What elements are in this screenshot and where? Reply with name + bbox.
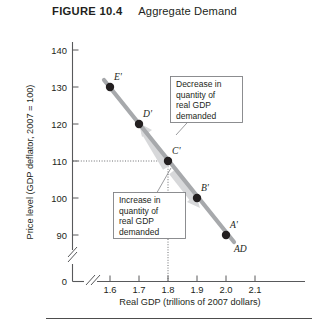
decrease-callout-line-2: quantity of	[176, 90, 216, 100]
x-tick-label-2-1: 2.1	[248, 284, 261, 295]
x-tick-label-1-7: 1.7	[132, 284, 145, 295]
data-point-A-prime[interactable]	[222, 231, 230, 239]
increase-callout-line-3: real GDP	[119, 216, 154, 226]
decrease-callout-line-1: Decrease in	[176, 79, 222, 89]
data-point-label-D-prime: D'	[142, 108, 153, 119]
aggregate-demand-chart: 140 130 120 110 100 90 0 1.6 1.7 1.8 1.9…	[0, 0, 328, 328]
data-point-label-C-prime: C'	[172, 145, 181, 156]
y-axis-ticks: 140 130 120 110 100 90 0	[51, 45, 78, 288]
x-axis-ticks: 1.6 1.7 1.8 1.9 2.0 2.1	[103, 276, 261, 295]
data-point-C-prime[interactable]	[164, 157, 172, 165]
figure-bottom-rule	[46, 318, 312, 319]
data-point-E-prime[interactable]	[106, 83, 114, 91]
ad-curve-label: AD	[233, 243, 247, 254]
decrease-callout[interactable]: Decrease in quantity of real GDP demande…	[171, 77, 243, 123]
increase-callout-line-2: quantity of	[119, 206, 159, 216]
y-tick-label-120: 120	[51, 119, 67, 130]
decrease-callout-line-4: demanded	[176, 111, 216, 121]
x-axis-title: Real GDP (trillions of 2007 dollars)	[119, 297, 260, 307]
data-point-label-B-prime: B'	[201, 182, 210, 193]
x-tick-label-2-0: 2.0	[219, 284, 232, 295]
increase-callout[interactable]: Increase in quantity of real GDP demande…	[114, 193, 186, 239]
origin-label: 0	[62, 276, 67, 287]
y-axis-title: Price level (GDP deflator, 2007 = 100)	[25, 85, 35, 240]
y-tick-label-130: 130	[51, 82, 67, 93]
data-point-label-E-prime: E'	[113, 71, 123, 82]
figure-container: FIGURE 10.4 Aggregate Demand	[0, 0, 328, 328]
data-point-label-A-prime: A'	[229, 219, 239, 230]
data-point-B-prime[interactable]	[193, 194, 201, 202]
y-tick-label-100: 100	[51, 193, 67, 204]
x-axis-break-icon	[86, 275, 100, 285]
decrease-callout-line-3: real GDP	[176, 100, 211, 110]
x-tick-label-1-8: 1.8	[161, 284, 174, 295]
x-tick-label-1-9: 1.9	[190, 284, 203, 295]
leader-line-increase	[155, 168, 171, 196]
increase-callout-line-4: demanded	[119, 227, 159, 237]
y-tick-label-110: 110	[52, 156, 67, 167]
increase-callout-line-1: Increase in	[119, 195, 161, 205]
y-tick-label-140: 140	[51, 45, 67, 56]
y-tick-label-90: 90	[57, 230, 67, 241]
x-tick-label-1-6: 1.6	[103, 284, 116, 295]
data-point-D-prime[interactable]	[135, 120, 143, 128]
